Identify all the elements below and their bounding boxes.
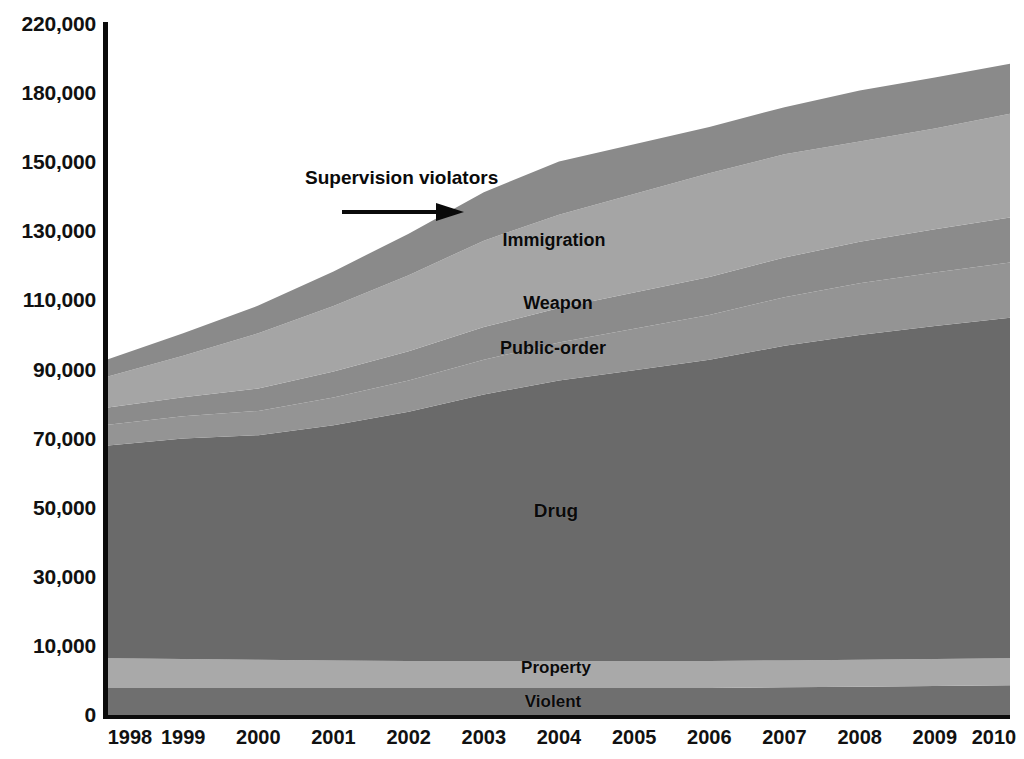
x-tick-label: 2010 [954,727,1024,747]
y-tick-label: 10,000 [33,635,96,656]
area-series-svg [108,22,1010,715]
x-tick-label: 2003 [444,727,524,747]
stacked-area-chart: 220,000180,000150,000130,000110,00090,00… [0,0,1024,759]
x-tick-label: 2005 [594,727,674,747]
y-tick-label: 180,000 [21,82,96,103]
y-tick-label: 150,000 [21,151,96,172]
y-tick-label: 50,000 [33,497,96,518]
x-tick-label: 2007 [745,727,825,747]
y-tick-label: 220,000 [21,13,96,34]
x-tick-label: 2008 [820,727,900,747]
y-tick-label: 70,000 [33,428,96,449]
annotation-label: Supervision violators [305,168,498,187]
y-tick-label: 110,000 [23,289,96,310]
band-label-public-order: Public-order [500,339,606,357]
annotation-supervision-violators: Supervision violators [305,168,498,227]
x-tick-label: 2002 [369,727,449,747]
x-tick-label: 2006 [669,727,749,747]
y-tick-label: 0 [85,704,96,725]
band-label-drug: Drug [534,501,578,520]
y-tick-label: 90,000 [33,359,96,380]
y-tick-label: 130,000 [21,220,96,241]
x-tick-label: 2001 [294,727,374,747]
x-tick-label: 2000 [218,727,298,747]
x-tick-label: 1999 [143,727,223,747]
arrow-right-icon [340,201,498,227]
band-label-immigration: Immigration [502,231,605,249]
plot-area [108,22,1010,715]
band-label-violent: Violent [525,693,581,710]
band-label-weapon: Weapon [523,294,593,312]
x-tick-label: 2004 [519,727,599,747]
band-label-property: Property [521,659,591,676]
y-tick-label: 30,000 [33,566,96,587]
